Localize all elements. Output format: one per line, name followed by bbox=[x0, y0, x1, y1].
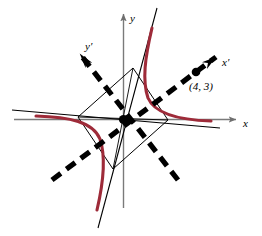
origin-dot bbox=[119, 115, 128, 124]
x-axis-label: x bbox=[242, 117, 248, 129]
x-prime-axis-label: x′ bbox=[221, 56, 230, 68]
plotted-point-4-3: (4, 3) bbox=[189, 68, 213, 93]
point-coordinate-label: (4, 3) bbox=[189, 80, 213, 93]
hyperbola-branch-lower-left bbox=[36, 116, 104, 210]
hyperbola-rotated-axes-figure: x y x′ bbox=[0, 0, 262, 236]
y-axis-label: y bbox=[129, 12, 135, 24]
figure-canvas: x y x′ bbox=[0, 0, 262, 236]
y-prime-axis: y′ bbox=[80, 40, 178, 180]
point-marker-dot bbox=[192, 68, 201, 77]
y-prime-axis-label: y′ bbox=[84, 40, 93, 52]
hyperbola-branch-upper-right bbox=[145, 28, 211, 121]
